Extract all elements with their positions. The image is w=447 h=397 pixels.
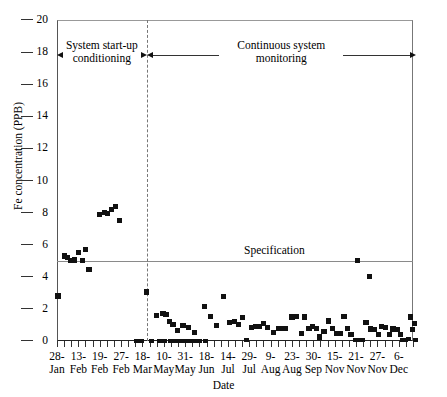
- data-point: [330, 326, 335, 331]
- data-point: [180, 323, 185, 328]
- data-point: [283, 326, 288, 331]
- data-point: [214, 323, 219, 328]
- y-tick-label: 4: [14, 271, 48, 283]
- data-point: [410, 327, 415, 332]
- data-point: [186, 325, 191, 330]
- data-point: [376, 332, 381, 337]
- y-tick-label: 6: [14, 239, 48, 251]
- data-point: [345, 326, 350, 331]
- y-tick-label: 14: [14, 110, 48, 122]
- data-point: [326, 318, 331, 323]
- data-point: [83, 247, 88, 252]
- data-point: [236, 322, 241, 327]
- x-tick: [64, 341, 65, 347]
- data-point: [244, 338, 249, 342]
- data-point: [72, 257, 77, 262]
- data-point: [265, 325, 270, 330]
- data-point: [363, 320, 368, 325]
- data-point: [406, 337, 411, 341]
- x-tick: [221, 341, 222, 347]
- x-tick: [278, 341, 279, 347]
- data-point: [202, 304, 207, 309]
- data-point: [367, 274, 372, 279]
- y-tick-label: 8: [14, 207, 48, 219]
- x-tick-label-month: Dec: [382, 363, 416, 376]
- x-tick: [292, 341, 293, 347]
- continuous-system-monitoring-arrow-line-left: [153, 55, 220, 56]
- data-point: [355, 258, 360, 263]
- data-point: [203, 339, 208, 343]
- x-tick: [93, 341, 94, 347]
- x-tick: [328, 341, 329, 347]
- x-tick: [306, 341, 307, 347]
- x-tick: [285, 341, 286, 347]
- x-tick: [342, 341, 343, 347]
- x-tick: [78, 341, 79, 347]
- data-point: [413, 338, 418, 342]
- x-tick: [235, 341, 236, 347]
- data-point: [208, 314, 213, 319]
- data-point: [80, 258, 85, 263]
- specification-label: Specification: [244, 244, 305, 256]
- data-point: [240, 315, 245, 320]
- x-tick: [249, 341, 250, 347]
- data-point: [412, 321, 417, 326]
- data-point: [341, 314, 346, 319]
- data-point: [163, 312, 168, 317]
- x-tick: [214, 341, 215, 347]
- data-point: [162, 339, 167, 343]
- data-point: [408, 314, 413, 319]
- x-tick: [271, 341, 272, 347]
- x-tick: [392, 341, 393, 347]
- x-tick: [100, 341, 101, 347]
- x-tick: [228, 341, 229, 347]
- x-tick: [320, 341, 321, 347]
- data-point: [302, 314, 307, 319]
- y-tick-label: 20: [14, 14, 48, 26]
- continuous-system-monitoring-arrow-head-right-icon: [410, 52, 416, 58]
- continuous-system-monitoring-line1: Continuous system: [201, 39, 361, 52]
- system-start-up-conditioning-line2: conditioning: [22, 52, 182, 65]
- x-tick: [377, 341, 378, 347]
- data-point: [338, 331, 343, 336]
- data-point: [139, 339, 144, 343]
- x-tick: [107, 341, 108, 347]
- data-point: [154, 313, 159, 318]
- data-point: [321, 329, 326, 334]
- x-tick: [256, 341, 257, 347]
- x-tick: [128, 341, 129, 347]
- y-tick-label: 2: [14, 303, 48, 315]
- x-tick: [299, 341, 300, 347]
- x-tick-label: 6-Dec: [382, 350, 416, 375]
- data-point: [317, 334, 322, 339]
- data-point: [113, 204, 118, 209]
- continuous-system-monitoring-arrow-line-right: [343, 55, 410, 56]
- data-point: [294, 314, 299, 319]
- x-tick: [385, 341, 386, 347]
- data-point: [149, 339, 154, 343]
- data-point: [398, 332, 403, 337]
- data-point: [299, 331, 304, 336]
- x-tick: [121, 341, 122, 347]
- data-point: [86, 267, 91, 272]
- data-point: [387, 332, 392, 337]
- data-point: [170, 322, 175, 327]
- x-tick: [263, 341, 264, 347]
- y-tick-label: 0: [14, 335, 48, 347]
- y-tick-label: 10: [14, 175, 48, 187]
- data-point: [360, 338, 365, 342]
- data-point: [383, 325, 388, 330]
- data-point: [221, 294, 226, 299]
- continuous-system-monitoring-arrow-head-left-icon: [147, 52, 153, 58]
- x-tick: [313, 341, 314, 347]
- data-point: [144, 289, 149, 294]
- data-point: [76, 250, 81, 255]
- x-tick: [114, 341, 115, 347]
- x-tick: [85, 341, 86, 347]
- data-point: [314, 326, 319, 331]
- y-tick-label: 16: [14, 78, 48, 90]
- x-tick: [335, 341, 336, 347]
- data-point: [175, 328, 180, 333]
- x-tick: [349, 341, 350, 347]
- plot-area: [57, 20, 413, 341]
